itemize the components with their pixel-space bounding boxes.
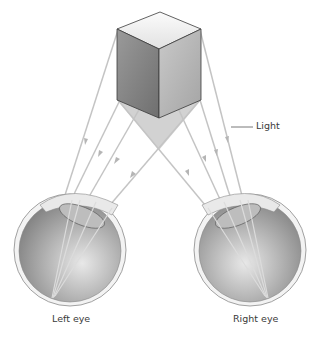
right-eye-label: Right eye <box>233 313 278 324</box>
cube <box>117 12 201 118</box>
left-eye <box>14 194 126 307</box>
binocular-vision-diagram <box>0 0 321 339</box>
right-eye <box>194 194 306 307</box>
light-label: Light <box>256 120 280 131</box>
left-eye-label: Left eye <box>52 313 90 324</box>
